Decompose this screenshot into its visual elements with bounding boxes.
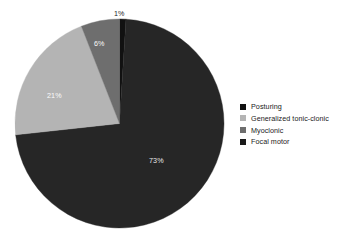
pie-label-posturing: 1% [114,10,125,17]
legend-item-label: Myoclonic [251,127,283,134]
legend-swatch-icon [240,139,246,145]
chart-legend: PosturingGeneralized tonic-clonicMyoclon… [240,101,354,148]
legend-item-label: Generalized tonic-clonic [251,115,329,122]
legend-swatch-icon [240,127,246,133]
pie-chart-figure: 1%73%21%6% PosturingGeneralized tonic-cl… [0,0,354,243]
legend-swatch-icon [240,115,246,121]
pie-label-generalized-tonic-clonic: 21% [47,92,62,99]
legend-item-myoclonic: Myoclonic [240,125,354,136]
pie-plot-area: 1%73%21%6% [14,16,226,232]
legend-item-label: Posturing [251,103,282,110]
pie-label-myoclonic: 6% [94,40,105,47]
legend-swatch-icon [240,104,246,110]
legend-item-generalized-tonic-clonic: Generalized tonic-clonic [240,113,354,124]
pie-label-focal-motor: 73% [149,157,164,164]
pie-svg [14,16,226,232]
legend-item-posturing: Posturing [240,101,354,112]
pie-slice-group [15,19,224,228]
legend-item-focal-motor: Focal motor [240,136,354,147]
legend-item-label: Focal motor [251,138,290,145]
